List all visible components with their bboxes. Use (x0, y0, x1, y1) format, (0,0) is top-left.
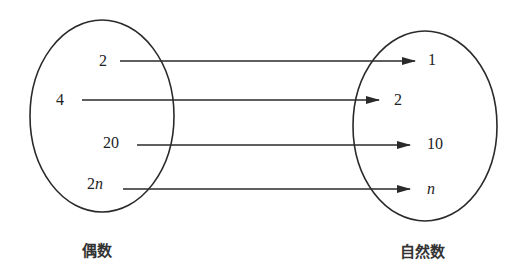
codomain-set-ellipse (353, 31, 497, 221)
domain-element-2n: 2n (87, 176, 103, 192)
domain-caption: 偶数 (82, 239, 112, 260)
codomain-element-n: n (427, 181, 435, 197)
coefficient: 2 (87, 175, 95, 192)
mapping-diagram (0, 0, 531, 275)
codomain-caption: 自然数 (400, 240, 445, 261)
domain-element-20: 20 (103, 135, 119, 151)
codomain-element-2: 2 (394, 92, 402, 108)
domain-element-4: 4 (56, 92, 64, 108)
domain-element-2: 2 (99, 53, 107, 69)
codomain-element-10: 10 (427, 136, 443, 152)
variable: n (95, 175, 103, 192)
codomain-element-1: 1 (428, 52, 436, 68)
